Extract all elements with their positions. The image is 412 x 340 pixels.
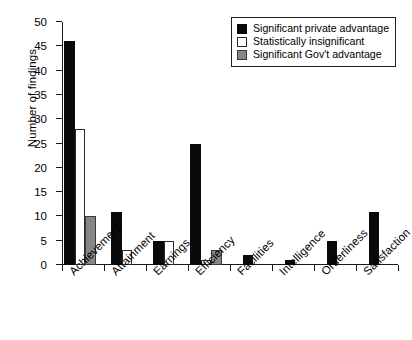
y-tick-label: 20	[34, 162, 47, 174]
x-tick	[398, 265, 399, 271]
bar	[75, 129, 86, 265]
legend-swatch-icon	[237, 24, 247, 34]
bar	[190, 144, 201, 266]
x-axis-labels: AchievementAttainmentEarningsEfficiencyF…	[62, 269, 398, 339]
legend-swatch-icon	[237, 37, 247, 47]
chart-legend: Significant private advantage Statistica…	[231, 17, 396, 67]
legend-item-label: Significant Gov't advantage	[253, 49, 382, 60]
bar-chart: Number of findings 05101520253035404550 …	[0, 0, 412, 340]
legend-swatch-icon	[237, 50, 247, 60]
y-tick-label: 30	[34, 113, 47, 125]
y-tick-label: 40	[34, 65, 47, 77]
y-tick-label: 0	[41, 259, 47, 271]
bar	[64, 41, 75, 265]
y-tick-label: 50	[34, 16, 47, 28]
legend-item: Significant private advantage	[237, 23, 389, 36]
y-tick-label: 45	[34, 40, 47, 52]
y-tick-label: 10	[34, 210, 47, 222]
y-tick-label: 25	[34, 138, 47, 150]
y-tick-label: 15	[34, 186, 47, 198]
legend-item-label: Significant private advantage	[253, 23, 389, 34]
legend-item-label: Statistically insignificant	[253, 36, 364, 47]
y-tick-label: 35	[34, 89, 47, 101]
y-tick-label: 5	[41, 235, 47, 247]
legend-item: Significant Gov't advantage	[237, 49, 389, 62]
legend-item: Statistically insignificant	[237, 36, 389, 49]
